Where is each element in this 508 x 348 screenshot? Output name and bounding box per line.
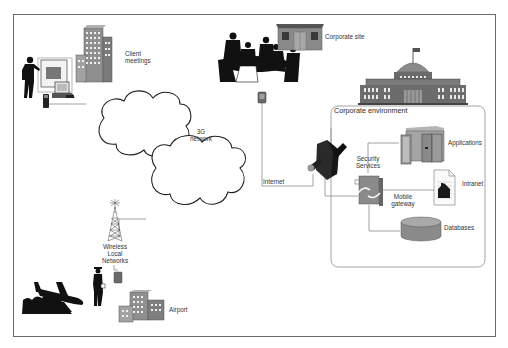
pda-icon — [258, 92, 266, 103]
database-icon — [401, 217, 441, 241]
small-office-icon — [276, 24, 324, 50]
security-services-label: Security Services — [353, 155, 383, 169]
document-house-icon — [434, 170, 455, 205]
label-line: 3G — [188, 128, 214, 135]
airport-label: Airport — [169, 306, 188, 313]
applications-label: Applications — [448, 139, 482, 146]
server-rack-icon — [401, 126, 444, 164]
laptop-icon — [52, 82, 75, 98]
airplane-icon — [22, 282, 83, 314]
label-line: Networks — [100, 257, 130, 264]
label-line: Wireless — [100, 243, 130, 250]
label-line: network — [188, 135, 214, 142]
databases-label: Databases — [444, 224, 474, 231]
3g-network-label: 3G network — [188, 128, 214, 142]
internet-label: Internet — [263, 178, 284, 185]
gateway-icon — [355, 176, 383, 206]
label-line: gateway — [390, 200, 416, 207]
corporate-environment-label: Corporate environment — [334, 107, 408, 114]
radio-tower-icon — [108, 199, 122, 241]
label-line: Local — [100, 250, 130, 257]
office-building-icon — [76, 25, 112, 82]
wireless-local-networks-label: Wireless Local Networks — [100, 243, 130, 264]
intranet-label: Intranet — [462, 180, 483, 187]
label-line: Mobile — [390, 193, 416, 200]
airport-building-icon — [119, 290, 164, 322]
client-meetings-label: Client meetings — [125, 50, 151, 64]
label-line: Security — [353, 155, 383, 162]
network-diagram — [0, 0, 508, 348]
label-line: Services — [353, 162, 383, 169]
mobile-gateway-label: Mobile gateway — [390, 193, 416, 207]
corporate-site-label: Corporate site — [325, 33, 365, 40]
capitol-building-icon — [358, 48, 468, 105]
mobile-phone-icon — [43, 94, 49, 108]
cloud-icon — [99, 91, 245, 205]
label-line: meetings — [125, 57, 151, 64]
firewall-lock-icon — [308, 140, 347, 180]
wlan-device-icon — [114, 272, 122, 283]
label-line: Client — [125, 50, 151, 57]
traveler-icon — [93, 267, 105, 306]
